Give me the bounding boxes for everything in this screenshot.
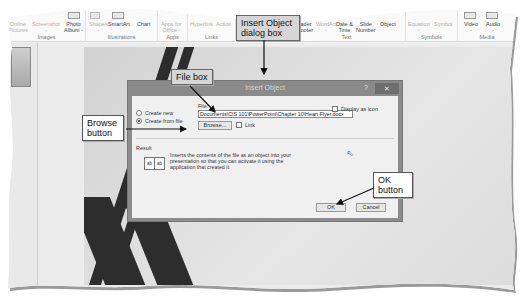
symbol-button[interactable]: Symbol — [434, 21, 452, 27]
callout-ok-button: OK button — [373, 172, 413, 198]
browse-button[interactable]: Browse... — [198, 121, 232, 130]
online-pictures-button[interactable]: Online Pictures — [8, 21, 28, 33]
slide-thumbnail-pane[interactable] — [8, 43, 38, 290]
ribbon-group-images: Online Pictures Screenshot - Photo Album… — [8, 8, 86, 42]
hyperlink-button[interactable]: Hyperlink — [190, 21, 213, 27]
ok-button[interactable]: OK — [316, 203, 346, 212]
screenshot-button[interactable]: Screenshot - — [32, 21, 60, 33]
link-checkbox[interactable] — [236, 122, 242, 128]
callout-browse-button: Browse button — [82, 115, 124, 141]
ribbon-group-illustrations: Shapes - SmartArt Chart Illustrations — [86, 8, 158, 42]
create-from-file-radio[interactable] — [136, 118, 142, 124]
ribbon-group-symbols: Equation - Symbol Symbols — [406, 8, 458, 42]
group-label-links: Links — [188, 34, 235, 40]
shapes-button[interactable]: Shapes - — [89, 21, 108, 33]
display-as-icon-option[interactable]: Display as icon — [332, 106, 378, 112]
link-label: Link — [245, 122, 255, 128]
group-label-media: Media — [458, 34, 516, 40]
link-option[interactable]: Link — [236, 122, 255, 128]
dialog-body: Create new Create from file File: Docume… — [132, 96, 398, 218]
chart-button[interactable]: Chart — [137, 21, 150, 27]
create-new-radio[interactable] — [136, 110, 142, 116]
dialog-titlebar[interactable]: Insert Object ? ✕ — [128, 81, 402, 96]
action-button[interactable]: Action — [216, 21, 231, 27]
photo-album-icon — [68, 12, 80, 19]
display-as-icon-label: Display as icon — [341, 106, 378, 112]
cancel-button[interactable]: Cancel — [356, 203, 386, 212]
video-button[interactable]: Video - — [464, 21, 478, 33]
audio-icon — [486, 12, 498, 19]
date-time-button[interactable]: Date & Time — [336, 21, 353, 33]
help-icon[interactable]: ? — [364, 84, 368, 91]
smartart-button[interactable]: SmartArt — [108, 21, 130, 27]
slide-number-button[interactable]: Slide Number — [356, 21, 376, 33]
audio-button[interactable]: Audio - — [486, 21, 500, 33]
dialog-title: Insert Object — [128, 84, 402, 91]
mouse-pointer-icon: ⇖ — [345, 147, 355, 158]
result-label: Result — [136, 145, 152, 151]
object-document-icon: ab ab — [144, 157, 166, 170]
dialog-divider — [136, 138, 394, 139]
create-from-file-label: Create from file — [145, 118, 183, 124]
ribbon-group-media: Video - Audio - Media — [458, 8, 516, 42]
display-as-icon-checkbox[interactable] — [332, 106, 338, 112]
create-new-option[interactable]: Create new — [136, 110, 173, 116]
apps-for-office-button[interactable]: Apps for Office - — [161, 21, 181, 33]
group-label-apps: Apps — [158, 34, 187, 40]
close-icon[interactable]: ✕ — [375, 83, 399, 94]
photo-album-button[interactable]: Photo Album - — [64, 21, 83, 33]
group-label-text: Text — [288, 34, 405, 40]
callout-file-box: File box — [171, 69, 213, 85]
group-label-symbols: Symbols — [406, 34, 457, 40]
equation-button[interactable]: Equation - — [408, 21, 430, 33]
ribbon-group-apps: Apps for Office - Apps — [158, 8, 188, 42]
object-button[interactable]: Object — [380, 21, 396, 27]
create-new-label: Create new — [145, 110, 173, 116]
file-path-input[interactable]: Documents\CIS 101\PowerPoint\Chapter 10\… — [198, 110, 353, 118]
result-description: Inserts the contents of the file as an o… — [170, 152, 310, 171]
group-label-images: Images — [8, 34, 85, 40]
insert-object-dialog: Insert Object ? ✕ Create new Create from… — [127, 80, 403, 222]
slide-thumbnail[interactable] — [11, 47, 31, 87]
smartart-icon — [112, 12, 124, 19]
torn-paper-frame: Online Pictures Screenshot - Photo Album… — [8, 8, 516, 290]
create-from-file-option[interactable]: Create from file — [136, 118, 183, 124]
file-label: File: — [198, 103, 208, 109]
ribbon-group-text: Header & Footer WordArt - Date & Time Sl… — [288, 8, 406, 42]
callout-insert-object-dialog: Insert Object dialog box — [236, 15, 300, 41]
video-icon — [464, 12, 476, 19]
group-label-illustrations: Illustrations — [86, 34, 157, 40]
shapes-icon — [90, 12, 100, 19]
wordart-button[interactable]: WordArt - — [316, 21, 336, 33]
ribbon-group-links: Hyperlink Action Links — [188, 8, 236, 42]
screenshot-page: Online Pictures Screenshot - Photo Album… — [0, 0, 525, 298]
